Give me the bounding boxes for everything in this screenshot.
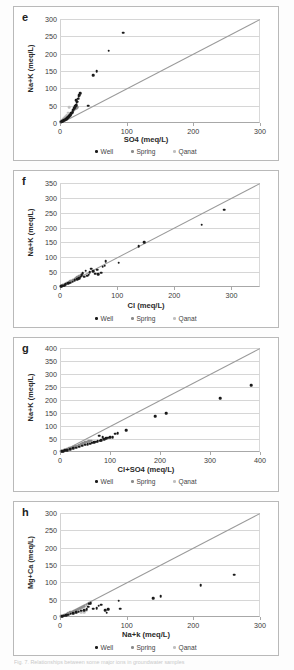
legend-item-qanat: Qanat: [173, 315, 196, 322]
data-point-well: [143, 241, 146, 244]
data-point-well: [75, 446, 78, 449]
data-point-well: [233, 573, 236, 576]
y-gridline: [60, 387, 260, 388]
y-tick-label: 100: [45, 253, 57, 262]
data-point-well: [138, 245, 141, 248]
y-gridline: [60, 19, 260, 20]
data-point-well: [92, 74, 95, 77]
y-tick-label: 50: [49, 595, 57, 604]
y-tick-label: 50: [49, 435, 57, 444]
x-tick-label: 0: [58, 456, 62, 465]
y-axis-title-h: Mg+Ca (meq/L): [26, 520, 35, 606]
plot-area-f: 0501001502002503003500100200300: [60, 183, 260, 287]
x-tick-label: 100: [111, 291, 123, 300]
x-tick-mark: [174, 287, 175, 290]
panel-letter-f: f: [22, 175, 26, 187]
x-axis-title-f: Cl (meq/L): [14, 301, 278, 310]
legend-label-spring: Spring: [136, 148, 155, 155]
legend-label-qanat: Qanat: [179, 478, 197, 485]
y-tick-label: 150: [45, 409, 57, 418]
data-point-well: [72, 612, 75, 615]
legend-marker-qanat: [173, 480, 176, 483]
data-point-well: [87, 104, 90, 107]
y-tick-label: 350: [45, 357, 57, 366]
legend-label-spring: Spring: [136, 315, 155, 322]
y-gridline: [60, 88, 260, 89]
legend-item-spring: Spring: [131, 644, 155, 651]
y-tick-label: 0: [53, 283, 57, 292]
data-point-well: [67, 282, 70, 285]
y-gridline: [60, 228, 260, 229]
y-gridline: [60, 242, 260, 243]
legend-label-spring: Spring: [136, 644, 155, 651]
y-tick-label: 100: [45, 422, 57, 431]
x-tick-mark: [193, 123, 194, 126]
y-tick-label: 350: [45, 179, 57, 188]
y-gridline: [60, 413, 260, 414]
legend-marker-well: [95, 480, 98, 483]
y-tick-label: 0: [53, 448, 57, 457]
legend-item-well: Well: [95, 644, 113, 651]
legend-marker-spring: [131, 646, 134, 649]
x-tick-label: 400: [254, 456, 266, 465]
y-gridline: [60, 348, 260, 349]
panel-e: e 0501001502002503000100200300 Na+K (meq…: [13, 6, 279, 161]
data-point-well: [119, 607, 122, 610]
x-tick-mark: [260, 617, 261, 620]
data-point-well: [111, 436, 114, 439]
y-gridline: [60, 183, 260, 184]
x-tick-mark: [160, 452, 161, 455]
y-gridline: [60, 361, 260, 362]
legend-item-qanat: Qanat: [173, 148, 196, 155]
panel-letter-g: g: [22, 342, 29, 354]
data-point-well: [118, 261, 121, 264]
data-point-well: [117, 599, 120, 602]
data-point-well: [92, 607, 95, 610]
y-tick-label: 200: [45, 223, 57, 232]
y-tick-label: 150: [45, 67, 57, 76]
x-tick-mark: [127, 123, 128, 126]
x-tick-mark: [260, 123, 261, 126]
x-tick-label: 300: [225, 291, 237, 300]
data-point-well: [89, 442, 92, 445]
data-point-well: [199, 584, 202, 587]
data-point-well: [72, 447, 75, 450]
data-point-well: [102, 265, 105, 268]
y-tick-label: 300: [45, 193, 57, 202]
data-point-well: [98, 435, 101, 438]
data-point-well: [107, 608, 110, 611]
legend-marker-qanat: [173, 150, 176, 153]
x-tick-label: 200: [154, 456, 166, 465]
legend-item-qanat: Qanat: [173, 644, 196, 651]
panel-letter-h: h: [22, 506, 29, 518]
legend-marker-spring: [131, 317, 134, 320]
data-point-well: [76, 278, 79, 281]
data-point-qanat: [68, 106, 71, 109]
data-point-well: [165, 412, 168, 415]
data-point-well: [250, 384, 253, 387]
legend-marker-spring: [131, 480, 134, 483]
y-gridline: [60, 426, 260, 427]
y-tick-label: 250: [45, 526, 57, 535]
data-point-well: [95, 70, 98, 73]
data-point-well: [74, 279, 77, 282]
data-point-well: [83, 609, 86, 612]
legend-item-well: Well: [95, 478, 113, 485]
data-point-well: [75, 611, 78, 614]
data-point-well: [85, 608, 88, 611]
x-tick-label: 300: [204, 456, 216, 465]
legend-label-well: Well: [101, 315, 114, 322]
legend-f: Well Spring Qanat: [14, 315, 278, 322]
y-tick-label: 200: [45, 49, 57, 58]
x-tick-mark: [231, 287, 232, 290]
legend-label-qanat: Qanat: [179, 315, 197, 322]
data-point-well: [86, 443, 89, 446]
x-axis-title-g: Cl+SO4 (meq/L): [14, 465, 278, 474]
data-point-well: [69, 613, 72, 616]
x-tick-label: 200: [168, 291, 180, 300]
legend-e: Well Spring Qanat: [14, 148, 278, 155]
y-tick-label: 400: [45, 344, 57, 353]
data-point-well: [78, 446, 81, 449]
y-axis-title-g: Na+K (meq/L): [26, 355, 35, 441]
legend-label-well: Well: [101, 148, 114, 155]
